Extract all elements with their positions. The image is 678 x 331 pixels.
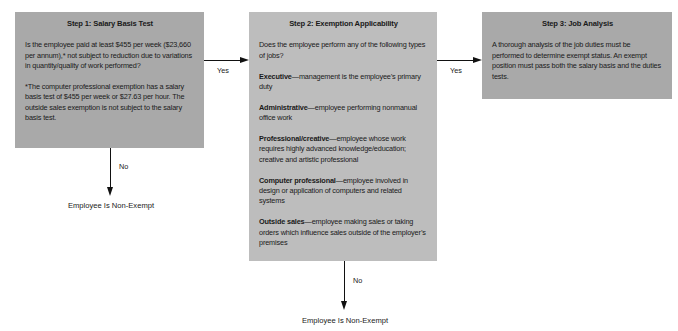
step2-question: Does the employee perform any of the fol… — [259, 40, 428, 61]
exemption-item-professional-creative: Professional/creative—employee whose wor… — [259, 134, 428, 165]
exemption-item-computer-professional: Computer professional—employee involved … — [259, 176, 428, 207]
exemption-name: Executive — [259, 72, 292, 81]
edge-label-no: No — [119, 162, 128, 171]
arrowhead-down-icon — [107, 187, 113, 196]
step3-title: Step 3: Job Analysis — [492, 19, 663, 29]
step1-question: Is the employee paid at least $455 per w… — [25, 40, 195, 71]
exemption-name: Outside sales — [259, 217, 305, 226]
connector-step2-step3 — [437, 60, 474, 61]
arrowhead-right-icon — [240, 57, 249, 63]
exemption-name: Computer professional — [259, 176, 336, 185]
outcome-non-exempt-step1: Employee Is Non-Exempt — [68, 201, 154, 210]
exemption-item-administrative: Administrative—employee performing nonma… — [259, 103, 428, 124]
arrowhead-down-icon — [341, 301, 347, 310]
outcome-non-exempt-step2: Employee Is Non-Exempt — [302, 316, 388, 325]
exemption-item-outside-sales: Outside sales—employee making sales or t… — [259, 217, 428, 248]
connector-step1-no — [110, 148, 111, 188]
step1-title: Step 1: Salary Basis Test — [25, 19, 195, 29]
step3-text: A thorough analysis of the job duties mu… — [492, 40, 663, 82]
exemption-name: Administrative — [259, 103, 308, 112]
connector-step2-no — [344, 261, 345, 302]
edge-label-yes: Yes — [450, 66, 462, 75]
step1-salary-basis-box: Step 1: Salary Basis Test Is the employe… — [15, 12, 204, 148]
connector-step1-step2 — [204, 60, 241, 61]
edge-label-no: No — [353, 276, 362, 285]
exemption-item-executive: Executive—management is the employee’s p… — [259, 72, 428, 93]
step1-footnote: *The computer professional exemption has… — [25, 82, 195, 124]
step2-exemption-box: Step 2: Exemption Applicability Does the… — [249, 12, 437, 261]
arrowhead-right-icon — [473, 57, 482, 63]
step2-title: Step 2: Exemption Applicability — [259, 19, 428, 29]
step3-job-analysis-box: Step 3: Job Analysis A thorough analysis… — [482, 12, 672, 99]
exemption-name: Professional/creative — [259, 134, 329, 143]
edge-label-yes: Yes — [217, 66, 229, 75]
